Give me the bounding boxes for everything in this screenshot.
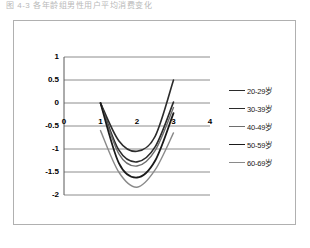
legend-swatch-icon xyxy=(229,108,245,109)
y-tick-label: -1.5 xyxy=(37,167,59,176)
y-tick-label: 0 xyxy=(37,98,59,107)
x-tick-label: 4 xyxy=(204,117,216,126)
y-tick-label: -2 xyxy=(37,190,59,199)
legend-item[interactable]: 40-49岁 xyxy=(229,117,297,135)
legend-label: 20-29岁 xyxy=(247,85,272,96)
series-lines xyxy=(101,80,174,187)
y-tick-label: 1 xyxy=(37,52,59,61)
legend-item[interactable]: 50-59岁 xyxy=(229,135,297,153)
x-tick-label: 3 xyxy=(168,117,180,126)
figure-caption: 图 4-3 各年龄组男性用户平均消费变化 xyxy=(6,0,236,9)
legend-item[interactable]: 20-29岁 xyxy=(229,81,297,99)
legend-label: 60-69岁 xyxy=(247,157,272,168)
legend-label: 30-39岁 xyxy=(247,103,272,114)
legend-item[interactable]: 30-39岁 xyxy=(229,99,297,117)
y-tick-label: -1 xyxy=(37,144,59,153)
chart-page: 图 4-3 各年龄组男性用户平均消费变化 10.50-0.5-1-1.5-2 0… xyxy=(0,0,310,248)
series-line xyxy=(101,102,174,162)
legend-swatch-icon xyxy=(229,162,245,163)
y-tick-label: 0.5 xyxy=(37,75,59,84)
chart-frame: 10.50-0.5-1-1.5-2 01234 20-29岁30-39岁40-4… xyxy=(13,20,296,225)
y-tick-label: -0.5 xyxy=(37,121,59,130)
legend-swatch-icon xyxy=(229,126,245,127)
legend-label: 50-59岁 xyxy=(247,139,272,150)
plot-area: 10.50-0.5-1-1.5-2 01234 20-29岁30-39岁40-4… xyxy=(14,21,297,226)
legend-item[interactable]: 60-69岁 xyxy=(229,153,297,171)
legend-swatch-icon xyxy=(229,144,245,145)
chart-legend: 20-29岁30-39岁40-49岁50-59岁60-69岁 xyxy=(229,81,297,171)
legend-label: 40-49岁 xyxy=(247,121,272,132)
x-tick-label: 1 xyxy=(95,117,107,126)
x-tick-label: 2 xyxy=(131,117,143,126)
legend-swatch-icon xyxy=(229,90,245,91)
x-tick-label: 0 xyxy=(58,117,70,126)
